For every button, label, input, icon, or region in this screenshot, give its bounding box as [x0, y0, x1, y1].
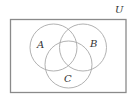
- set-a-label: A: [36, 39, 44, 50]
- universe-label: U: [115, 4, 124, 15]
- set-b-label: B: [89, 38, 97, 49]
- set-c-label: C: [64, 73, 72, 84]
- venn-diagram: U A B C: [0, 0, 132, 98]
- set-b-circle: [60, 24, 107, 71]
